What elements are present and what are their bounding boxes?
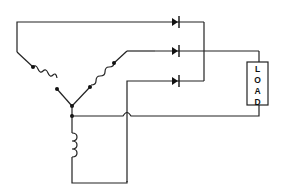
circuit-diagram <box>0 0 284 193</box>
load-letter: O <box>247 75 268 86</box>
diode-3 <box>155 75 204 87</box>
phase-c-wire <box>127 81 155 182</box>
load-letter: A <box>247 86 268 97</box>
load-letter: D <box>247 97 268 108</box>
neutral-inductor <box>72 116 127 183</box>
diode-1 <box>155 16 204 28</box>
load-letter: L <box>247 64 268 75</box>
diode-2 <box>155 45 259 57</box>
phase-b-winding <box>72 51 155 106</box>
phase-a-winding <box>17 22 155 106</box>
load-label: L O A D <box>247 64 268 108</box>
neutral-return-wire <box>72 105 259 116</box>
